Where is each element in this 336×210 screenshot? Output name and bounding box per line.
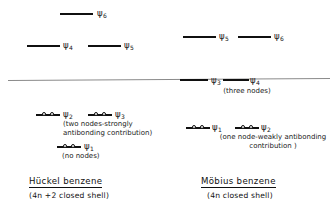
huckel-level-psi2-electron-pair: [36, 111, 60, 119]
nonbonding-reference-line: [8, 78, 330, 81]
electron-dot: [50, 112, 54, 116]
note-line-1: (no nodes): [62, 152, 100, 161]
psi-glyph: ψ: [63, 40, 69, 50]
psi-subscript: 6: [280, 35, 284, 42]
mobius-label-psi1: ψ1: [212, 123, 221, 132]
psi-glyph: ψ: [115, 109, 121, 119]
psi-subscript: 1: [90, 145, 94, 152]
mobius-label-psi6: ψ6: [274, 32, 283, 41]
mobius-level-psi6: [238, 36, 271, 38]
psi-glyph: ψ: [212, 122, 218, 132]
mo-energy-diagram: ψ6 ψ4 ψ5 ψ2 ψ3 (two nodes-strongly antib…: [0, 0, 336, 210]
psi-glyph: ψ: [219, 31, 225, 41]
psi-glyph: ψ: [97, 8, 103, 18]
huckel-label-psi6: ψ6: [97, 9, 106, 18]
mobius-level-psi2-electron-pair: [235, 124, 259, 132]
huckel-level-psi4: [27, 45, 60, 47]
mobius-note-three-nodes: (three nodes): [205, 87, 289, 96]
electron-dot: [102, 112, 106, 116]
mobius-label-psi4: ψ4: [250, 76, 259, 85]
mobius-level-psi4: [223, 79, 249, 81]
level-bar: [235, 127, 259, 129]
psi-glyph: ψ: [63, 109, 69, 119]
huckel-level-psi3-electron-pair: [88, 111, 112, 119]
level-bar: [57, 146, 81, 148]
huckel-title: Hückel benzene: [29, 176, 102, 188]
psi-subscript: 5: [225, 35, 229, 42]
electron-dot: [71, 144, 75, 148]
psi-subscript: 6: [103, 12, 107, 19]
huckel-note-two-nodes: (two nodes-strongly antibonding contribu…: [63, 120, 152, 137]
huckel-level-psi5: [88, 45, 121, 47]
note-line-2: contribution ): [212, 142, 334, 151]
mobius-level-psi3: [180, 79, 208, 81]
psi-glyph: ψ: [84, 141, 90, 151]
psi-glyph: ψ: [124, 40, 130, 50]
mobius-label-psi2: ψ2: [261, 123, 270, 132]
mobius-label-psi3: ψ3: [211, 76, 220, 85]
psi-subscript: 3: [217, 79, 221, 86]
mobius-label-psi5: ψ5: [219, 32, 228, 41]
psi-glyph: ψ: [261, 122, 267, 132]
note-line-1: (two nodes-strongly: [63, 120, 152, 129]
huckel-level-psi1-electron-pair: [57, 143, 81, 151]
level-bar: [186, 127, 210, 129]
mobius-title: Möbius benzene: [201, 176, 276, 188]
huckel-label-psi4: ψ4: [63, 41, 72, 50]
psi-glyph: ψ: [250, 75, 256, 85]
huckel-label-psi1: ψ1: [84, 142, 93, 151]
electron-dot: [249, 125, 253, 129]
note-line-1: (three nodes): [205, 87, 289, 96]
psi-subscript: 5: [130, 44, 134, 51]
psi-subscript: 1: [218, 126, 222, 133]
level-bar: [88, 114, 112, 116]
psi-glyph: ψ: [211, 75, 217, 85]
note-line-1: (one node-weakly antibonding: [212, 133, 334, 142]
huckel-subtitle: (4n +2 closed shell): [29, 191, 109, 200]
psi-subscript: 3: [121, 113, 125, 120]
huckel-label-psi2: ψ2: [63, 110, 72, 119]
psi-subscript: 2: [69, 113, 73, 120]
mobius-subtitle: (4n closed shell): [207, 191, 273, 200]
electron-dot: [200, 125, 204, 129]
huckel-label-psi5: ψ5: [124, 41, 133, 50]
mobius-note-one-node: (one node-weakly antibonding contributio…: [212, 133, 334, 150]
huckel-level-psi6: [60, 13, 93, 15]
psi-glyph: ψ: [274, 31, 280, 41]
huckel-note-no-nodes: (no nodes): [62, 152, 100, 161]
level-bar: [36, 114, 60, 116]
psi-subscript: 4: [69, 44, 73, 51]
note-line-2: antibonding contribution): [63, 129, 152, 138]
psi-subscript: 2: [267, 126, 271, 133]
huckel-label-psi3: ψ3: [115, 110, 124, 119]
psi-subscript: 4: [256, 79, 260, 86]
mobius-level-psi1-electron-pair: [186, 124, 210, 132]
mobius-level-psi5: [183, 36, 216, 38]
